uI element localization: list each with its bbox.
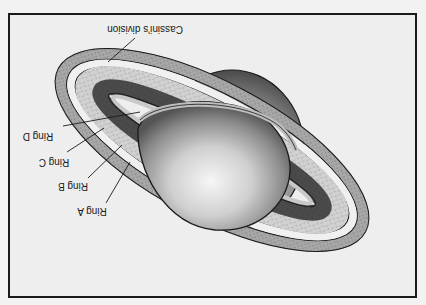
label-ring-a: Ring A: [77, 206, 107, 217]
saturn-diagram: Cassini's division Ring D Ring C Ring B …: [0, 0, 426, 305]
label-ring-d: Ring D: [23, 131, 54, 142]
label-ring-b: Ring B: [58, 181, 88, 192]
label-ring-c: Ring C: [39, 157, 70, 168]
label-cassini-division: Cassini's division: [107, 24, 183, 35]
